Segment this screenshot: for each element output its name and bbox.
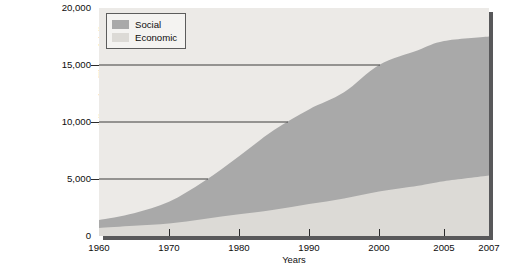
x-axis-tick-mark (309, 229, 310, 236)
x-axis-tick-mark (239, 229, 240, 236)
y-axis-tick-label: 10,000 (31, 116, 91, 127)
x-axis-tick-label: 2000 (353, 242, 405, 253)
legend-label-economic: Economic (135, 32, 177, 43)
x-axis-tick-mark (444, 229, 445, 236)
y-axis-tick-label: 20,000 (31, 2, 91, 13)
area-chart: Constant year 2000 dollars, in millions … (46, 0, 522, 266)
legend-swatch-economic (112, 33, 129, 42)
x-axis-title: Years (99, 254, 489, 265)
x-axis-tick-mark (169, 229, 170, 236)
x-axis-tick-mark (379, 229, 380, 236)
figure-caption-body-line: and (0, 31, 50, 39)
figure-caption-body-line: ort 28, (0, 71, 50, 79)
legend-item-economic: Economic (112, 31, 177, 44)
y-axis-tick-mark (91, 179, 99, 180)
figure-caption-body: and derating n udget for 2007,” ort 28, (0, 31, 50, 78)
y-axis-tick-mark (91, 65, 99, 66)
figure-caption-body-line: n (0, 47, 50, 55)
y-axis-tick-label: 15,000 (31, 59, 91, 70)
chart-legend: Social Economic (106, 13, 186, 49)
figure-caption-body-line: derating (0, 39, 50, 47)
x-axis-tick-label: 2007 (463, 242, 515, 253)
x-axis-tick-label: 1970 (143, 242, 195, 253)
legend-item-social: Social (112, 18, 177, 31)
x-axis-tick-label: 1960 (73, 242, 125, 253)
y-axis-tick-label: 5,000 (31, 173, 91, 184)
chart-page: S. ivities and derating n udget for 2007… (0, 0, 522, 266)
y-axis-tick-mark (91, 122, 99, 123)
legend-label-social: Social (135, 19, 161, 30)
y-axis-tick-label: 0 (31, 230, 91, 241)
x-axis-tick-label: 1990 (283, 242, 335, 253)
x-axis-tick-label: 1980 (213, 242, 265, 253)
legend-swatch-social (112, 20, 129, 29)
figure-caption-title-line: ivities (0, 15, 50, 26)
